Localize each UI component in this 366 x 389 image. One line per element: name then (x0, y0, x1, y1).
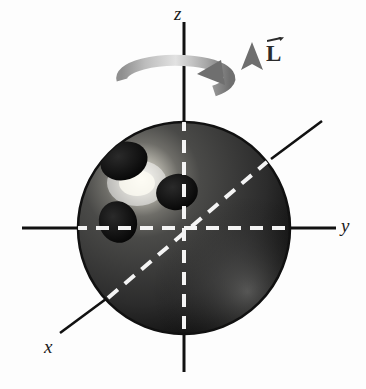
y-axis-label: y (341, 216, 349, 235)
x-axis-near-segment (60, 296, 110, 333)
x-axis-label: x (44, 337, 52, 356)
angular-momentum-arrow (241, 42, 263, 116)
physics-diagram-figure: z y x L (0, 0, 366, 389)
rotation-arrow (122, 60, 230, 91)
angular-momentum-symbol: L (266, 41, 281, 66)
angular-momentum-label: L (266, 42, 281, 65)
x-axis-far-segment (271, 121, 322, 159)
diagram-canvas (0, 0, 366, 389)
vector-overarrow-icon (267, 35, 284, 44)
z-axis-label: z (174, 4, 181, 23)
axis-lines-inside-ball (74, 118, 294, 338)
